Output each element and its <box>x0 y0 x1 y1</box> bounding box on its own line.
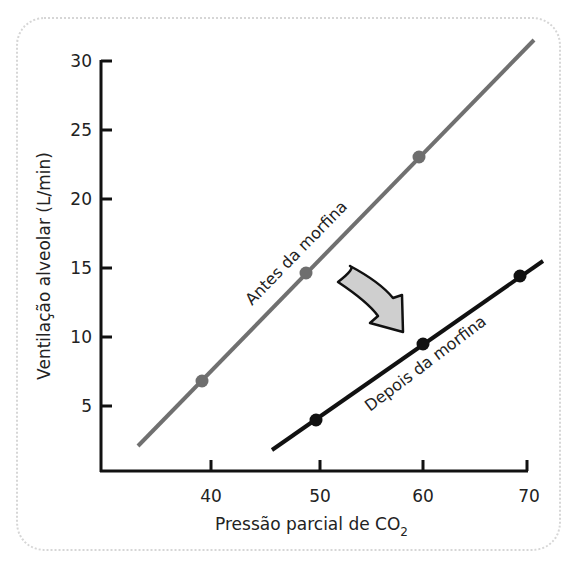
y-tick-label: 10 <box>70 327 92 347</box>
y-axis-title: Ventilação alveolar (L/min) <box>34 152 54 380</box>
x-tick-label: 70 <box>518 486 540 506</box>
y-tick-label: 20 <box>70 189 92 209</box>
y-tick-label: 15 <box>70 258 92 278</box>
y-tick-label: 5 <box>81 396 92 416</box>
series-depois-da-morfina <box>272 261 543 450</box>
x-axis <box>100 460 528 471</box>
x-tick-label: 40 <box>200 486 222 506</box>
x-tick-label: 60 <box>412 486 434 506</box>
chart: 30 25 20 15 10 5 40 50 60 70 Ventilação … <box>0 0 582 576</box>
series-antes-da-morfina <box>138 40 534 446</box>
series-label-antes: Antes da morfina <box>241 197 351 309</box>
y-tick-label: 25 <box>70 120 92 140</box>
curved-arrow-icon <box>338 266 403 332</box>
x-axis-title: Pressão parcial de CO2 <box>215 514 408 539</box>
x-tick-label: 50 <box>309 486 331 506</box>
y-axis <box>101 60 112 472</box>
y-tick-label: 30 <box>70 51 92 71</box>
